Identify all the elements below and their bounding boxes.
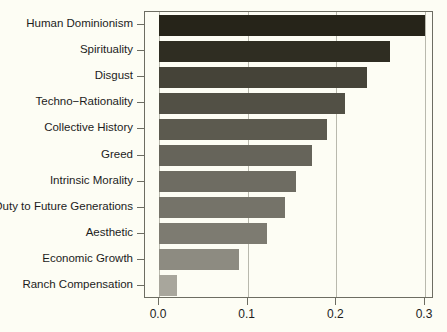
bar-row [145, 223, 434, 244]
x-axis-label: 0.2 [327, 307, 344, 321]
x-axis-tick [335, 298, 336, 305]
bar [159, 15, 425, 36]
bar-row [145, 67, 434, 88]
bar-row [145, 249, 434, 270]
x-axis-label: 0.3 [416, 307, 433, 321]
y-axis-tick [137, 155, 144, 156]
x-axis-label: 0.1 [238, 307, 255, 321]
bar [159, 171, 296, 192]
y-axis-tick [137, 102, 144, 103]
x-axis-label: 0.0 [150, 307, 167, 321]
bar [159, 93, 345, 114]
bar [159, 197, 285, 218]
bar-row [145, 197, 434, 218]
bar-chart: Human Dominionism Spirituality Disgust T… [0, 0, 447, 332]
bar [159, 249, 239, 270]
bar [159, 275, 177, 296]
x-axis-tick [247, 298, 248, 305]
y-axis-tick [137, 50, 144, 51]
bar [159, 67, 367, 88]
plot-panel [144, 11, 433, 298]
bar-row [145, 275, 434, 296]
y-axis-tick [137, 128, 144, 129]
bar-row [145, 93, 434, 114]
y-axis-tick [137, 76, 144, 77]
x-axis-tick [424, 298, 425, 305]
bar-row [145, 119, 434, 140]
bar [159, 145, 312, 166]
y-axis-tick-group [0, 11, 144, 298]
bar-row [145, 15, 434, 36]
y-axis-tick [137, 233, 144, 234]
y-axis-tick [137, 207, 144, 208]
bar-group [145, 12, 432, 297]
y-axis-tick [137, 181, 144, 182]
bar-row [145, 41, 434, 62]
bar [159, 41, 390, 62]
bar [159, 223, 267, 244]
y-axis-tick [137, 285, 144, 286]
bar-row [145, 145, 434, 166]
x-axis-tick [158, 298, 159, 305]
bar [159, 119, 327, 140]
y-axis-tick [137, 259, 144, 260]
bar-row [145, 171, 434, 192]
x-axis-tick-group: 0.00.10.20.3 [144, 298, 433, 332]
y-axis-tick [137, 24, 144, 25]
